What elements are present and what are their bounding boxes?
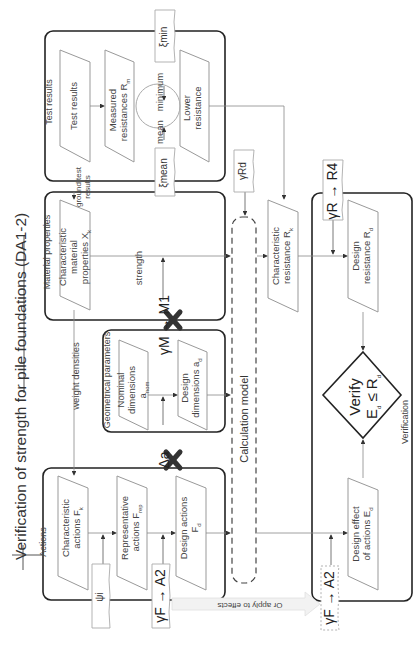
group-label-verification: Verification bbox=[400, 394, 412, 450]
param-xi-min: ξmin bbox=[158, 17, 172, 57]
param-xi-mean: ξmean bbox=[158, 148, 172, 198]
box-char-material: Characteristicmaterialproperties Xk bbox=[58, 217, 92, 297]
group-label-geometrical: Geometrical parameters bbox=[102, 330, 114, 430]
param-psi: ψi bbox=[94, 582, 108, 612]
box-design-resistance: Designresistance Rd bbox=[351, 216, 375, 296]
param-delta-a: Δa bbox=[156, 445, 174, 475]
box-measured-resistances: Measuredresistances Rm bbox=[108, 70, 132, 150]
box-rep-actions: Representativeactions Frep bbox=[120, 488, 144, 568]
box-char-actions: Characteristicactions Fk bbox=[61, 493, 85, 563]
group-label-material-properties: Material properties bbox=[42, 212, 54, 292]
param-gamma-f-a2-effects: γF → A2 bbox=[321, 563, 339, 633]
box-nominal-dimensions: Nominaldimensionsanom bbox=[116, 360, 150, 420]
verify-condition: Verify Ed ≤ Rd bbox=[346, 362, 380, 432]
verify-title: Verify bbox=[346, 378, 363, 416]
label-strength: strength bbox=[134, 243, 146, 293]
label-weight-densities: weight densities bbox=[71, 336, 83, 416]
param-gamma-f-a2: γF → A2 bbox=[152, 561, 170, 631]
box-design-actions: Design actionsFd bbox=[179, 493, 203, 563]
param-gamma-r-r4: γR → R4 bbox=[324, 156, 342, 226]
box-design-effect: Design effectof actions Ed bbox=[351, 494, 375, 574]
calculation-model-label: Calculation model bbox=[238, 374, 252, 464]
param-gamma-m-m1: γM → M1 bbox=[156, 290, 174, 360]
diagram-title: Verification of strength for pile founda… bbox=[12, 220, 32, 560]
label-ground-test-results: ground testresults bbox=[74, 164, 96, 210]
group-label-test-results: Test results bbox=[44, 72, 56, 132]
box-lower-resistance: Lowerresistance bbox=[182, 78, 206, 138]
group-label-actions: Actions bbox=[38, 522, 50, 562]
box-char-resistance: Characteristicresistance Rk bbox=[271, 216, 295, 296]
box-test-results: Test results bbox=[69, 76, 81, 136]
label-or-apply-to-effects: Or apply to effects bbox=[200, 598, 300, 610]
param-gamma-rd: γRd bbox=[237, 151, 251, 191]
box-design-dimensions: Designdimensions ad bbox=[180, 353, 204, 423]
